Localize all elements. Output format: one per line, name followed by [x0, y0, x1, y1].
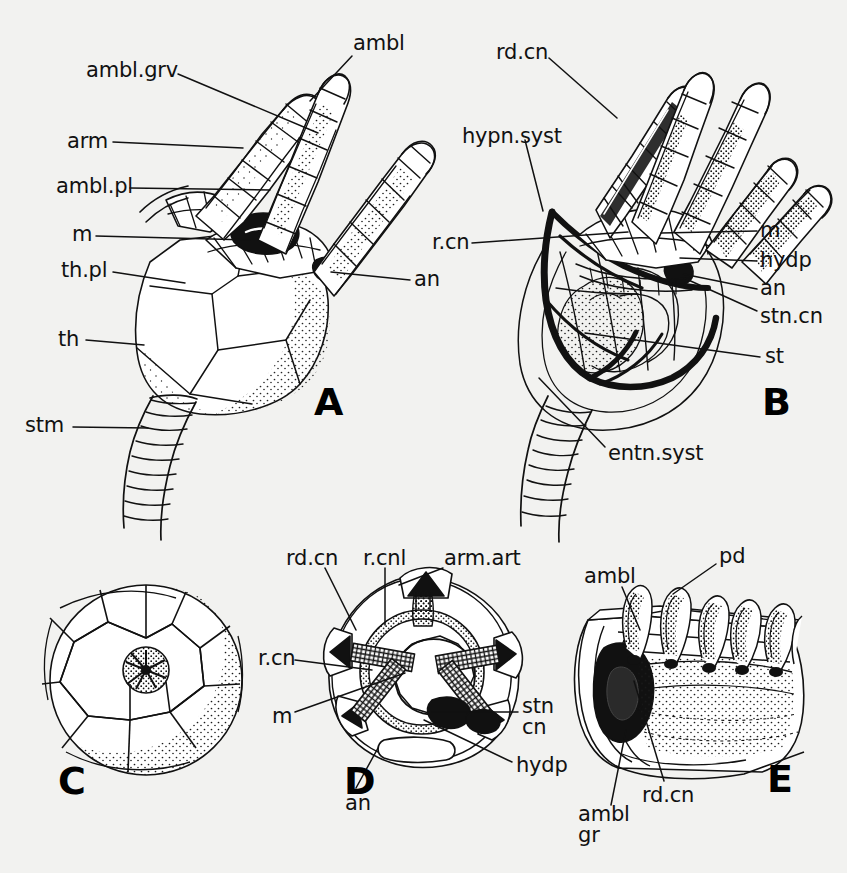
label-th-pl: th.pl [61, 260, 107, 281]
label-ambl-grv: ambl.grv [86, 60, 178, 81]
label-ambl: ambl [584, 566, 636, 587]
label-rd-cn: rd.cn [496, 42, 548, 63]
label-r-cn: r.cn [432, 232, 469, 253]
figure-plate: ambl.grvamblarmambl.plmth.planthstmrd.cn… [0, 0, 847, 873]
label-m: m [272, 706, 292, 727]
leader-rd-cn [325, 568, 356, 630]
leader-hypn-syst [525, 140, 543, 211]
label-r-cnl: r.cnl [363, 548, 406, 569]
label-ambl-pl: ambl.pl [56, 176, 133, 197]
label-an: an [414, 269, 440, 290]
label-ambl-gr: ambl gr [578, 804, 630, 847]
label-rd-cn: rd.cn [642, 785, 694, 806]
leader-pd [673, 564, 716, 594]
leader-stm [73, 427, 148, 428]
label-r-cn: r.cn [258, 648, 295, 669]
label-ambl: ambl [353, 33, 405, 54]
label-rd-cn: rd.cn [286, 548, 338, 569]
panel-letter-c: C [58, 762, 86, 800]
label-pd: pd [719, 546, 745, 567]
panel-letter-e: E [767, 760, 793, 798]
label-arm-art: arm.art [444, 548, 521, 569]
leader-rd-cn [549, 58, 617, 118]
label-m: m [72, 224, 92, 245]
label-stn-cn: stn cn [522, 696, 554, 739]
panel-letter-d: D [344, 762, 376, 800]
label-th: th [58, 329, 79, 350]
panel-letter-a: A [314, 383, 343, 421]
panel-e-artwork [575, 586, 805, 779]
label-hydp: hydp [516, 755, 568, 776]
label-st: st [765, 346, 784, 367]
label-stn-cn: stn.cn [760, 306, 823, 327]
leader-arm [113, 142, 243, 148]
label-stm: stm [25, 415, 64, 436]
label-hydp: hydp [760, 250, 812, 271]
label-entn-syst: entn.syst [608, 443, 703, 464]
label-hypn-syst: hypn.syst [462, 126, 562, 147]
label-arm: arm [67, 131, 108, 152]
figure-artwork [0, 0, 847, 873]
leader-entn-syst [539, 378, 605, 447]
panel-letter-b: B [762, 383, 791, 421]
label-an: an [760, 278, 786, 299]
label-m: m [760, 220, 780, 241]
panel-c-artwork [42, 585, 243, 775]
